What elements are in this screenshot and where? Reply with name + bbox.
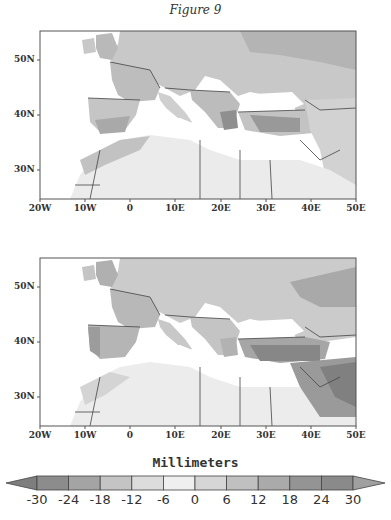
lon-label: 40E xyxy=(296,430,326,440)
colorbar-under-arrow xyxy=(6,476,37,490)
lon-label: 40E xyxy=(296,203,326,213)
lon-label: 20E xyxy=(206,203,236,213)
colorbar-bin xyxy=(227,476,259,490)
colorbar-label: -6 xyxy=(148,492,178,507)
colorbar-title: Millimeters xyxy=(0,455,391,470)
turkey-core xyxy=(250,345,320,361)
colorbar-over-arrow xyxy=(353,476,385,490)
lon-label: 30E xyxy=(251,430,281,440)
colorbar-bin xyxy=(37,476,69,490)
colorbar-label: 24 xyxy=(306,492,336,507)
lon-label: 0 xyxy=(115,430,145,440)
colorbar-label: -18 xyxy=(85,492,115,507)
lon-label: 10E xyxy=(160,430,190,440)
colorbar-label: -24 xyxy=(54,492,84,507)
lon-label: 50E xyxy=(341,203,371,213)
lat-label: 30N xyxy=(14,164,35,174)
lon-label: 50E xyxy=(341,430,371,440)
colorbar-bin xyxy=(132,476,164,490)
ireland xyxy=(82,265,96,281)
lat-label: 40N xyxy=(14,109,35,119)
colorbar-bin xyxy=(163,476,195,490)
colorbar-label: 12 xyxy=(243,492,273,507)
lat-label: 40N xyxy=(14,336,35,346)
lat-label: 50N xyxy=(14,54,35,64)
colorbar-label: 18 xyxy=(275,492,305,507)
colorbar-label: -30 xyxy=(22,492,52,507)
lat-label: 30N xyxy=(14,391,35,401)
colorbar-label: 30 xyxy=(338,492,368,507)
colorbar-bin xyxy=(258,476,290,490)
lon-label: 10E xyxy=(160,203,190,213)
colorbar-bin xyxy=(69,476,101,490)
colorbar-label: -12 xyxy=(117,492,147,507)
colorbar-bin xyxy=(290,476,322,490)
colorbar-label: 0 xyxy=(180,492,210,507)
map-panel-bottom: 50N 40N 30N 20W 10W 0 10E 20E 30E 40E 50… xyxy=(0,227,391,447)
lon-label: 30E xyxy=(251,203,281,213)
lon-label: 20E xyxy=(206,430,236,440)
lon-label: 20W xyxy=(25,203,55,213)
colorbar-label: 6 xyxy=(212,492,242,507)
lat-label: 50N xyxy=(14,281,35,291)
lon-label: 10W xyxy=(70,203,100,213)
lon-label: 10W xyxy=(70,430,100,440)
colorbar-bin xyxy=(100,476,132,490)
ireland xyxy=(82,38,96,54)
colorbar xyxy=(0,474,391,492)
map-panel-top: 50N 40N 30N 20W 10W 0 10E 20E 30E 40E 50… xyxy=(0,0,391,220)
map-plot-bottom xyxy=(0,227,391,447)
lon-label: 20W xyxy=(25,430,55,440)
colorbar-bin xyxy=(195,476,227,490)
lon-label: 0 xyxy=(115,203,145,213)
colorbar-bin xyxy=(321,476,353,490)
map-plot-top xyxy=(0,0,391,220)
